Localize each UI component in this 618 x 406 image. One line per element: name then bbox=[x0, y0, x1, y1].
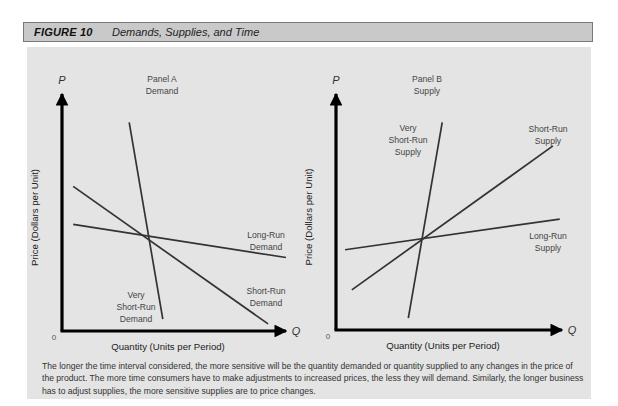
x-axis-symbol: Q bbox=[292, 325, 301, 337]
y-axis-label: Price (Dollars per Unit) bbox=[29, 169, 40, 266]
x-axis-label: Quantity (Units per Period) bbox=[386, 340, 500, 351]
y-axis-label: Price (Dollars per Unit) bbox=[303, 168, 314, 265]
panel-title: Panel BSupply bbox=[412, 74, 442, 96]
figure-caption: The longer the time interval considered,… bbox=[42, 360, 587, 397]
curve-label: Short-RunSupply bbox=[528, 124, 567, 146]
curve-short-run-supply bbox=[352, 146, 553, 290]
curve-long-run-supply bbox=[345, 219, 560, 250]
y-axis-symbol: P bbox=[58, 74, 66, 86]
origin-label: 0 bbox=[52, 333, 57, 342]
origin-label: 0 bbox=[326, 332, 331, 341]
curve-label: Long-RunDemand bbox=[247, 230, 285, 252]
curve-label: VeryShort-RunDemand bbox=[116, 290, 155, 324]
figure-charts: PQ0Quantity (Units per Period)Price (Dol… bbox=[0, 0, 618, 406]
panel-title: Panel ADemand bbox=[146, 74, 179, 96]
panel-a-demand-chart: PQ0Quantity (Units per Period)Price (Dol… bbox=[29, 74, 301, 352]
panel-b-supply-chart: PQ0Quantity (Units per Period)Price (Dol… bbox=[303, 74, 577, 351]
y-axis-symbol: P bbox=[332, 74, 340, 86]
x-axis-symbol: Q bbox=[568, 324, 577, 336]
curve-label: VeryShort-RunSupply bbox=[388, 123, 427, 157]
curve-label: Short-RunDemand bbox=[246, 286, 285, 308]
curve-label: Long-RunSupply bbox=[529, 231, 567, 253]
x-axis-label: Quantity (Units per Period) bbox=[111, 341, 225, 352]
curve-short-run-demand bbox=[73, 186, 268, 323]
